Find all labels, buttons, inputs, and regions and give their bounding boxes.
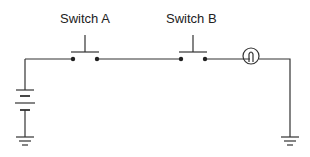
battery-icon xyxy=(15,90,35,110)
switch-a-label: Switch A xyxy=(60,11,110,26)
lamp-icon xyxy=(243,48,259,64)
switch-b-symbol xyxy=(179,35,207,52)
switch-a-contact-left xyxy=(71,57,75,61)
ground-right-icon xyxy=(281,137,299,145)
wire-lamp-to-right xyxy=(259,59,290,137)
circuit-diagram xyxy=(0,0,310,157)
switch-a-contact-right xyxy=(95,57,99,61)
switch-b-label: Switch B xyxy=(166,11,217,26)
switch-a-symbol xyxy=(71,35,99,52)
switch-b-contact-left xyxy=(179,57,183,61)
ground-left-icon xyxy=(16,137,34,145)
switch-b-contact-right xyxy=(203,57,207,61)
